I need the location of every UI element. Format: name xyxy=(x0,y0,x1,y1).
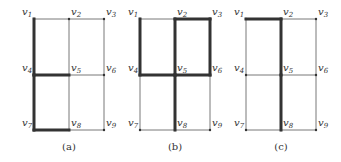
vertex-v8 xyxy=(280,129,282,131)
label-v6: v6 xyxy=(106,62,117,75)
vertex-v8 xyxy=(174,129,176,131)
vertex-v6 xyxy=(209,74,211,76)
vertex-v3 xyxy=(315,18,317,20)
label-v2: v2 xyxy=(177,6,188,19)
caption-c: (c) xyxy=(274,141,288,152)
vertex-v2 xyxy=(280,18,282,20)
label-v1: v1 xyxy=(128,6,138,19)
label-v6: v6 xyxy=(318,62,329,75)
vertex-v5 xyxy=(68,74,70,76)
label-v8: v8 xyxy=(283,117,294,130)
label-v4: v4 xyxy=(234,62,244,75)
vertex-v1 xyxy=(245,18,247,20)
caption-a: (a) xyxy=(62,141,76,152)
panel-c: v1v2v3v4v5v6v7v8v9(c) xyxy=(234,6,329,152)
label-v8: v8 xyxy=(177,117,188,130)
vertex-v2 xyxy=(174,18,176,20)
vertex-v4 xyxy=(33,74,35,76)
label-v2: v2 xyxy=(283,6,294,19)
vertex-v4 xyxy=(245,74,247,76)
label-v3: v3 xyxy=(318,6,329,19)
vertex-v5 xyxy=(174,74,176,76)
vertex-v6 xyxy=(315,74,317,76)
label-v7: v7 xyxy=(128,117,139,130)
vertex-v1 xyxy=(139,18,141,20)
label-v3: v3 xyxy=(212,6,223,19)
vertex-v3 xyxy=(103,18,105,20)
vertex-v7 xyxy=(245,129,247,131)
label-v2: v2 xyxy=(71,6,82,19)
label-v4: v4 xyxy=(22,62,32,75)
label-v5: v5 xyxy=(283,62,294,75)
vertex-v2 xyxy=(68,18,70,20)
label-v6: v6 xyxy=(212,62,223,75)
label-v4: v4 xyxy=(128,62,138,75)
label-v8: v8 xyxy=(71,117,82,130)
vertex-v3 xyxy=(209,18,211,20)
vertex-v5 xyxy=(280,74,282,76)
label-v7: v7 xyxy=(22,117,33,130)
vertex-v8 xyxy=(68,129,70,131)
label-v5: v5 xyxy=(177,62,188,75)
label-v7: v7 xyxy=(234,117,245,130)
label-v1: v1 xyxy=(22,6,32,19)
label-v1: v1 xyxy=(234,6,244,19)
grid-diagram: v1v2v3v4v5v6v7v8v9(a)v1v2v3v4v5v6v7v8v9(… xyxy=(0,0,341,162)
label-v9: v9 xyxy=(106,117,117,130)
vertex-v6 xyxy=(103,74,105,76)
vertex-v9 xyxy=(315,129,317,131)
label-v9: v9 xyxy=(318,117,329,130)
vertex-v1 xyxy=(33,18,35,20)
vertex-v7 xyxy=(139,129,141,131)
vertex-v4 xyxy=(139,74,141,76)
label-v3: v3 xyxy=(106,6,117,19)
vertex-v9 xyxy=(209,129,211,131)
caption-b: (b) xyxy=(168,141,182,152)
vertex-v9 xyxy=(103,129,105,131)
label-v5: v5 xyxy=(71,62,82,75)
panel-b: v1v2v3v4v5v6v7v8v9(b) xyxy=(128,6,223,152)
label-v9: v9 xyxy=(212,117,223,130)
vertex-v7 xyxy=(33,129,35,131)
panel-a: v1v2v3v4v5v6v7v8v9(a) xyxy=(22,6,117,152)
